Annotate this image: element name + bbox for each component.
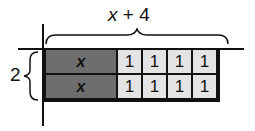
width-constant: + 4 bbox=[118, 4, 150, 25]
side-brace-icon bbox=[22, 50, 40, 102]
unit-tile: 1 bbox=[118, 75, 143, 100]
height-label: 2 bbox=[10, 64, 21, 86]
unit-tile: 1 bbox=[193, 50, 218, 75]
unit-tile: 1 bbox=[168, 75, 193, 100]
width-label: x + 4 bbox=[108, 4, 150, 26]
top-brace-icon bbox=[44, 28, 230, 46]
unit-tile: 1 bbox=[143, 75, 168, 100]
x-tile: x bbox=[44, 50, 118, 75]
width-variable: x bbox=[108, 4, 118, 25]
unit-tile: 1 bbox=[168, 50, 193, 75]
unit-tile: 1 bbox=[118, 50, 143, 75]
unit-tile: 1 bbox=[143, 50, 168, 75]
tile-grid: x 1 1 1 1 x 1 1 1 1 bbox=[44, 50, 220, 102]
x-tile: x bbox=[44, 75, 118, 100]
unit-tile: 1 bbox=[193, 75, 218, 100]
